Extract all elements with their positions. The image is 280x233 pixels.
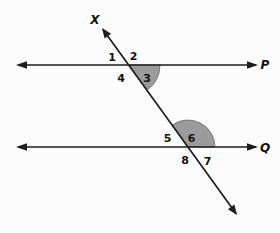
line-p-label: P <box>261 58 270 72</box>
angle-label-7: 7 <box>204 155 212 168</box>
geometry-figure: X P Q 1 2 3 4 5 6 7 8 <box>0 0 280 233</box>
figure-background <box>0 0 280 233</box>
parallel-lines-transversal-diagram: X P Q 1 2 3 4 5 6 7 8 <box>0 0 280 233</box>
angle-label-2: 2 <box>130 50 138 63</box>
angle-label-8: 8 <box>181 154 189 167</box>
angle-label-1: 1 <box>108 51 116 64</box>
angle-label-3: 3 <box>143 72 151 85</box>
angle-label-6: 6 <box>188 132 196 145</box>
line-q-label: Q <box>260 141 270 155</box>
angle-label-5: 5 <box>164 132 172 145</box>
transversal-label: X <box>89 13 100 27</box>
angle-label-4: 4 <box>117 72 125 85</box>
